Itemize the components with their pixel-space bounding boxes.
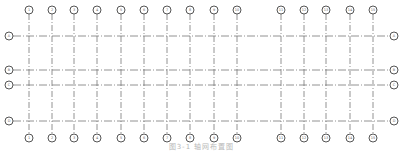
- svg-text:12: 12: [302, 8, 306, 12]
- row-axis-bubble-right: A: [390, 32, 398, 40]
- svg-text:12: 12: [302, 136, 306, 140]
- row-axis-bubble-right: C: [390, 81, 398, 89]
- column-axis-bubble-top: 13: [322, 6, 330, 14]
- column-axis-bubble-top: 1: [25, 6, 33, 14]
- column-axis-bubble-top: 12: [300, 6, 308, 14]
- svg-text:11: 11: [279, 136, 283, 140]
- column-axis-bubble-top: 9: [210, 6, 218, 14]
- column-axis-bubble-top: 8: [186, 6, 194, 14]
- svg-text:9: 9: [213, 136, 215, 140]
- svg-text:2: 2: [51, 136, 53, 140]
- row-axis-bubble-right: B: [390, 66, 398, 74]
- svg-text:7: 7: [166, 136, 168, 140]
- figure-caption: 图3-1 轴网布置图: [0, 141, 403, 151]
- row-axis-bubble-left: C: [5, 81, 13, 89]
- column-axis-bubble-top: 5: [117, 6, 125, 14]
- column-axis-bubble-top: 15: [369, 6, 377, 14]
- axis-grid-diagram: 1122334455667788991010111112121313141415…: [0, 0, 403, 152]
- svg-text:13: 13: [324, 8, 328, 12]
- svg-text:6: 6: [143, 8, 145, 12]
- svg-text:8: 8: [189, 8, 191, 12]
- row-axis-bubble-right: D: [390, 117, 398, 125]
- svg-text:13: 13: [324, 136, 328, 140]
- svg-text:3: 3: [73, 136, 75, 140]
- svg-text:14: 14: [348, 8, 353, 12]
- row-axis-bubble-left: D: [5, 117, 13, 125]
- svg-text:2: 2: [51, 8, 53, 12]
- column-axis-bubble-top: 2: [48, 6, 56, 14]
- column-axis-bubble-top: 10: [233, 6, 241, 14]
- svg-text:D: D: [393, 119, 396, 123]
- row-axis-bubble-left: A: [5, 32, 13, 40]
- svg-text:5: 5: [120, 8, 122, 12]
- column-axis-bubble-top: 11: [277, 6, 285, 14]
- svg-text:1: 1: [28, 8, 30, 12]
- svg-text:11: 11: [279, 8, 283, 12]
- svg-text:D: D: [8, 119, 11, 123]
- svg-text:7: 7: [166, 8, 168, 12]
- column-axis-bubble-top: 4: [93, 6, 101, 14]
- column-axis-bubble-top: 6: [140, 6, 148, 14]
- row-axis-bubble-left: B: [5, 66, 13, 74]
- svg-text:9: 9: [213, 8, 215, 12]
- svg-text:8: 8: [189, 136, 191, 140]
- svg-text:10: 10: [235, 136, 239, 140]
- column-axis-bubble-top: 3: [70, 6, 78, 14]
- svg-text:14: 14: [348, 136, 353, 140]
- svg-text:15: 15: [371, 8, 375, 12]
- svg-text:10: 10: [235, 8, 239, 12]
- svg-text:6: 6: [143, 136, 145, 140]
- column-axis-bubble-top: 7: [163, 6, 171, 14]
- svg-text:3: 3: [73, 8, 75, 12]
- svg-text:5: 5: [120, 136, 122, 140]
- column-axis-bubble-top: 14: [346, 6, 354, 14]
- svg-text:1: 1: [28, 136, 30, 140]
- svg-text:15: 15: [371, 136, 375, 140]
